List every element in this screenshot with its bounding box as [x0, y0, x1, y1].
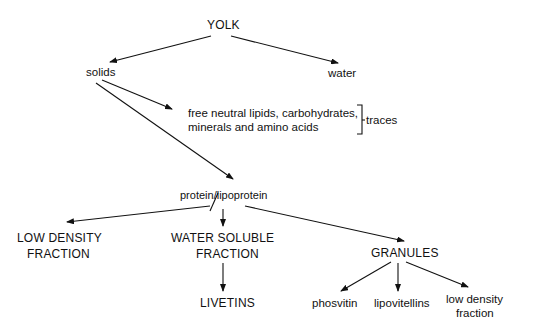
node-low-density-fraction-l2: FRACTION [27, 247, 90, 261]
node-lipovitellins: lipovitellins [374, 296, 430, 310]
node-water-soluble-fraction-l2: FRACTION [196, 247, 259, 261]
arrow-protein-ldf [67, 206, 210, 222]
node-yolk: YOLK [207, 18, 240, 32]
arrow-layer [0, 0, 546, 327]
node-phosvitin: phosvitin [312, 296, 357, 310]
traces-label: traces [366, 113, 397, 127]
node-granules: GRANULES [371, 246, 439, 260]
node-protein-lipoprotein: protein/lipoprotein [180, 188, 267, 202]
node-traces-line1: free neutral lipids, carbohydrates, [188, 106, 358, 120]
node-water-soluble-fraction-l1: WATER SOLUBLE [171, 231, 274, 245]
node-livetins: LIVETINS [200, 296, 255, 310]
node-solids: solids [86, 65, 115, 79]
arrow-yolk-water [231, 36, 338, 63]
node-low-density-fraction-l1: LOW DENSITY [17, 231, 102, 245]
node-water: water [328, 66, 356, 80]
node-traces-line2: minerals and amino acids [188, 120, 318, 134]
arrow-granules-phosvitin [341, 262, 391, 291]
node-low-density-fraction-leaf-l1: low density [446, 292, 503, 306]
arrow-granules-ldf [406, 262, 468, 287]
node-low-density-fraction-leaf-l2: fraction [456, 306, 494, 320]
arrow-yolk-solids [110, 36, 211, 62]
